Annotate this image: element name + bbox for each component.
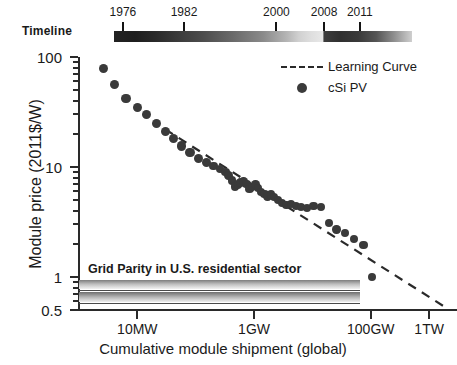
filled-circle-icon xyxy=(276,83,328,93)
grid-parity-baseline xyxy=(79,303,360,304)
y-tick-label-0.5: 0.5 xyxy=(0,302,62,319)
timeline-tick-2011 xyxy=(359,22,361,31)
y-minor-tick xyxy=(73,243,78,245)
data-point xyxy=(152,119,161,128)
timeline-year-2000: 2000 xyxy=(263,5,290,19)
data-point xyxy=(325,219,333,227)
data-point xyxy=(350,235,358,243)
y-minor-tick xyxy=(73,177,78,179)
y-major-tick-1 xyxy=(70,276,78,278)
y-minor-tick xyxy=(73,61,78,63)
grid-parity-band-upper xyxy=(79,280,360,289)
y-minor-tick xyxy=(73,89,78,91)
x-tick-label-100GW: 100GW xyxy=(347,321,394,337)
timeline-year-2008: 2008 xyxy=(311,5,338,19)
data-point xyxy=(317,203,325,211)
x-tick-label-1TW: 1TW xyxy=(414,321,444,337)
timeline-label: Timeline xyxy=(22,24,72,38)
timeline-year-2011: 2011 xyxy=(347,5,373,19)
y-minor-tick xyxy=(73,223,78,225)
y-minor-tick xyxy=(73,190,78,192)
data-point xyxy=(161,127,170,136)
dashed-line-icon xyxy=(276,66,328,68)
y-minor-tick xyxy=(73,133,78,135)
figure-canvas: Timeline 19761982200020082011 Module pri… xyxy=(0,0,457,365)
grid-parity-divider xyxy=(79,290,360,291)
timeline-tick-2000 xyxy=(275,22,277,31)
y-minor-tick xyxy=(73,183,78,185)
x-axis-title: Cumulative module shipment (global) xyxy=(78,340,368,357)
data-point xyxy=(133,103,142,112)
y-axis-line xyxy=(78,57,80,311)
y-minor-tick xyxy=(73,73,78,75)
grid-parity-band-lower xyxy=(79,292,360,302)
legend-label-csi-pv: cSi PV xyxy=(328,80,367,95)
x-tick-label-10MW: 10MW xyxy=(117,321,157,337)
timeline-tick-1976 xyxy=(122,22,124,31)
y-minor-tick xyxy=(73,293,78,295)
timeline-year-1976: 1976 xyxy=(110,5,137,19)
timeline-tick-1982 xyxy=(183,22,185,31)
y-minor-tick xyxy=(73,80,78,82)
legend-item-csi-pv: cSi PV xyxy=(276,77,417,98)
y-tick-label-100: 100 xyxy=(0,49,62,66)
y-major-tick-0.5 xyxy=(70,309,78,311)
x-tick-10MW xyxy=(136,311,138,319)
y-minor-tick xyxy=(73,300,78,302)
legend-item-learning-curve: Learning Curve xyxy=(276,56,417,77)
y-tick-label-10: 10 xyxy=(0,158,62,175)
x-tick-label-1GW: 1GW xyxy=(238,321,270,337)
x-tick-100GW xyxy=(370,311,372,319)
grid-parity-label: Grid Parity in U.S. residential sector xyxy=(88,262,301,276)
y-minor-tick xyxy=(73,199,78,201)
data-point xyxy=(185,148,194,157)
data-point xyxy=(332,225,340,233)
timeline-gradient-bar xyxy=(114,31,412,42)
data-point xyxy=(341,229,349,237)
y-minor-tick xyxy=(73,210,78,212)
data-point xyxy=(368,273,376,281)
legend-label-learning-curve: Learning Curve xyxy=(328,59,417,74)
data-point xyxy=(110,80,119,89)
y-minor-tick xyxy=(73,287,78,289)
y-minor-tick xyxy=(73,171,78,173)
y-major-tick-10 xyxy=(70,166,78,168)
data-point xyxy=(142,110,151,119)
y-minor-tick xyxy=(73,100,78,102)
y-minor-tick xyxy=(73,281,78,283)
y-tick-label-1: 1 xyxy=(0,268,62,285)
timeline-tick-2008 xyxy=(323,22,325,31)
y-minor-tick xyxy=(73,113,78,115)
data-point xyxy=(121,94,130,103)
x-axis-line xyxy=(78,309,457,311)
timeline-year-1982: 1982 xyxy=(171,5,198,19)
y-major-tick-100 xyxy=(70,56,78,58)
x-tick-1TW xyxy=(428,311,430,319)
legend: Learning Curve cSi PV xyxy=(276,56,417,98)
data-point xyxy=(99,64,108,73)
y-minor-tick xyxy=(73,67,78,69)
x-tick-1GW xyxy=(253,311,255,319)
data-point xyxy=(359,241,367,249)
